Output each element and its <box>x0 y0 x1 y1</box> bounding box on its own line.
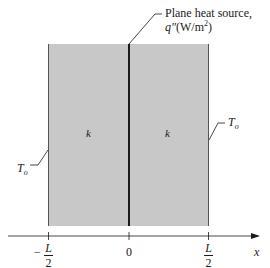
right-boundary-temp: To <box>228 115 239 131</box>
tick-label-pos-half-L: L 2 <box>204 242 213 268</box>
right-conductivity-label: k <box>165 127 170 139</box>
diagram-canvas <box>0 0 270 268</box>
tick-label-neg-half-L: L 2 <box>44 242 53 268</box>
source-label-line2: q″(W/m2) <box>165 19 212 35</box>
left-temp-symbol: T <box>17 161 24 175</box>
left-temp-leader-line <box>30 150 48 165</box>
tick-label-zero: 0 <box>126 245 132 260</box>
tick-label-neg-sign: − <box>34 245 41 260</box>
frac-numerator: L <box>205 242 212 254</box>
units-close: ) <box>208 20 212 34</box>
right-temp-symbol: T <box>228 115 235 129</box>
left-boundary-temp: To <box>17 161 28 177</box>
x-axis-label: x <box>254 245 259 260</box>
frac-denominator: 2 <box>46 257 52 268</box>
frac-denominator: 2 <box>206 257 212 268</box>
source-leader-line <box>129 14 162 44</box>
left-temp-subscript: o <box>24 168 28 177</box>
left-conductivity-label: k <box>86 127 91 139</box>
units-open: (W/m <box>176 20 204 34</box>
frac-numerator: L <box>45 242 52 254</box>
x-axis-arrowhead <box>251 233 260 239</box>
right-temp-subscript: o <box>235 122 239 131</box>
right-temp-leader-line <box>209 123 225 140</box>
heat-flux-symbol: q″ <box>165 20 176 34</box>
